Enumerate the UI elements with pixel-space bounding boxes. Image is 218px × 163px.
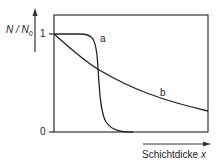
curve-a-label: a [100, 34, 106, 44]
curve-a [54, 34, 133, 132]
tick-label-1: 1 [40, 29, 46, 39]
y-arrow-head-icon [33, 8, 38, 16]
chart-canvas [0, 0, 218, 163]
curve-b [54, 34, 208, 111]
x-arrow-head-icon [203, 142, 211, 147]
x-axis-label: Schichtdicke x [142, 150, 206, 160]
curve-b-label: b [160, 88, 166, 98]
tick-label-0: 0 [40, 127, 46, 137]
y-axis-label: N / N0 [6, 25, 33, 39]
plot-frame [54, 15, 208, 132]
